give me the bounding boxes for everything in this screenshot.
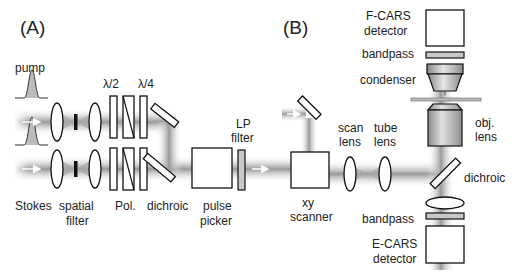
bandpass-filter-top	[426, 52, 464, 58]
label-xy-scanner-2: scanner	[290, 210, 333, 224]
bandpass-filter-bottom	[426, 213, 464, 219]
lp-filter	[238, 150, 245, 190]
polarizer-pump	[123, 96, 134, 138]
tube-lens	[379, 157, 391, 191]
scanner-up-beam	[300, 118, 318, 154]
label-tube-lens-2: lens	[374, 135, 396, 149]
label-stokes: Stokes	[15, 199, 52, 213]
label-spatial-filter-2: filter	[66, 214, 89, 228]
fcars-detector	[426, 10, 464, 46]
objective-lens	[428, 104, 462, 146]
label-fcars-1: F-CARS	[366, 9, 411, 23]
label-fcars-2: detector	[364, 24, 407, 38]
label-ecars-2: detector	[373, 252, 416, 266]
panel-b: (B)	[282, 9, 505, 270]
panel-a-label: (A)	[20, 17, 45, 38]
half-wave-plate-pump	[110, 96, 117, 138]
label-dichroic-b: dichroic	[464, 171, 505, 185]
label-quarter-wave: λ/4	[138, 77, 154, 91]
half-wave-plate-stokes	[110, 148, 117, 190]
quarter-wave-plate-stokes	[140, 148, 147, 190]
label-half-wave: λ/2	[103, 77, 119, 91]
label-obj-lens-1: obj.	[475, 116, 494, 130]
ecars-detector	[426, 226, 464, 263]
label-tube-lens-1: tube	[374, 121, 398, 135]
polarizer-stokes	[123, 148, 134, 190]
label-obj-lens-2: lens	[475, 130, 497, 144]
label-bandpass-top: bandpass	[362, 47, 414, 61]
label-polarizer: Pol.	[115, 199, 136, 213]
label-spatial-filter-1: spatial	[59, 199, 94, 213]
collection-lens	[426, 197, 464, 209]
label-lp-filter-2: filter	[231, 131, 254, 145]
cars-microscope-diagram: (A)	[0, 0, 515, 273]
label-condenser: condenser	[360, 73, 416, 87]
label-scan-lens-1: scan	[338, 121, 363, 135]
xy-scanner	[291, 152, 329, 188]
label-lp-filter-1: LP	[236, 117, 251, 131]
label-ecars-1: E-CARS	[372, 237, 417, 251]
scan-lens	[344, 157, 356, 191]
pulse-picker	[192, 148, 232, 188]
label-dichroic-a: dichroic	[147, 199, 188, 213]
label-pump: pump	[15, 61, 45, 75]
quarter-wave-plate-pump	[140, 96, 147, 138]
label-pulse-picker-1: pulse	[203, 199, 232, 213]
label-xy-scanner-1: xy	[302, 196, 314, 210]
label-scan-lens-2: lens	[339, 135, 361, 149]
sample-slide	[411, 98, 481, 101]
label-pulse-picker-2: picker	[200, 214, 232, 228]
panel-b-label: (B)	[283, 17, 308, 38]
label-bandpass-bottom: bandpass	[362, 212, 414, 226]
panel-a: (A)	[14, 17, 318, 228]
